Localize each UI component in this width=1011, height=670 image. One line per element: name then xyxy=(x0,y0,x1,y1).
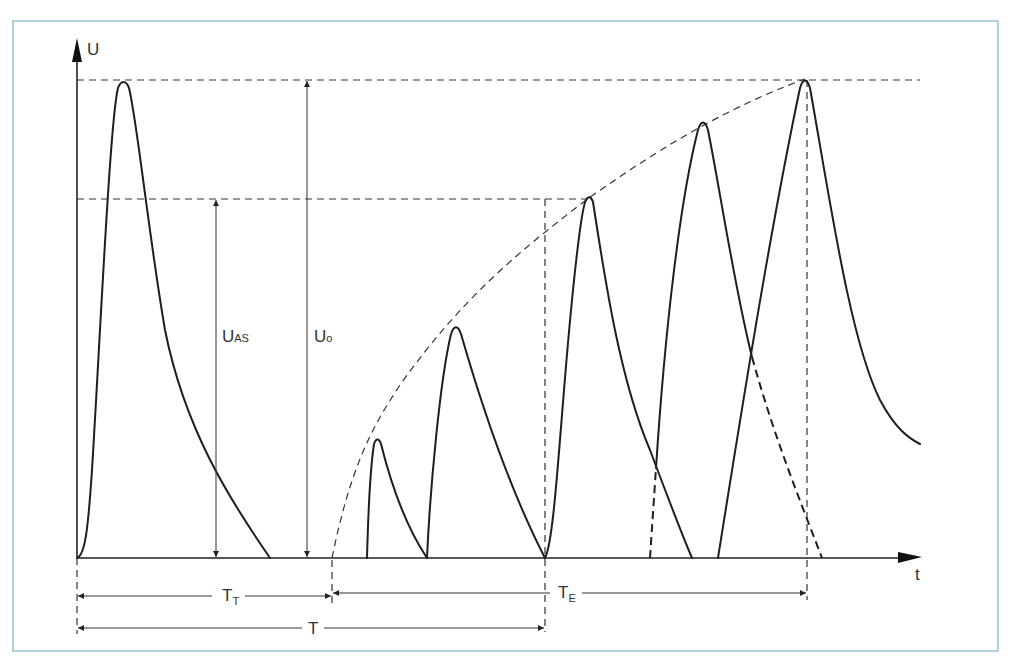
u0-label: Uo xyxy=(314,327,332,346)
x-axis-arrow-icon xyxy=(898,552,922,563)
pulses xyxy=(77,81,920,559)
tt-label: TT xyxy=(222,586,239,607)
pulse-5-decay-hidden xyxy=(752,357,822,558)
diagram-frame xyxy=(13,21,998,651)
pulse-5 xyxy=(656,123,752,469)
pulse-3 xyxy=(427,327,545,558)
envelope-curve xyxy=(332,79,805,558)
t-label: T xyxy=(308,619,318,638)
x-axis-label: t xyxy=(915,565,920,584)
pulse-4 xyxy=(545,197,692,558)
voltage-dimensions: UAS Uo xyxy=(216,81,332,557)
pulse-6 xyxy=(718,81,920,559)
uas-label: UAS xyxy=(222,327,249,346)
pulse-2 xyxy=(367,440,427,559)
y-axis-arrow-icon xyxy=(72,38,82,62)
guide-lines xyxy=(77,79,920,634)
axes: U t xyxy=(72,38,922,584)
time-dimensions: TT TE T xyxy=(78,583,806,638)
pulse-5-rise-hidden xyxy=(650,468,656,558)
voltage-pulse-diagram: U t UAS Uo TT TE T xyxy=(0,0,1011,670)
pulse-1 xyxy=(77,82,270,558)
te-label: TE xyxy=(558,583,576,604)
y-axis-label: U xyxy=(87,40,99,59)
